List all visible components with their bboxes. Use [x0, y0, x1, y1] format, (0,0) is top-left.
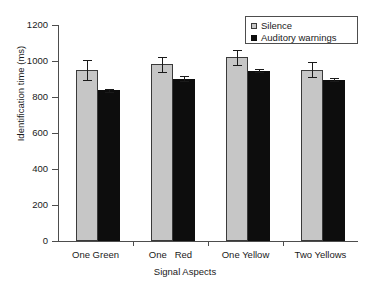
legend-item-silence: Silence [251, 20, 353, 31]
bar-silence-0 [76, 70, 98, 241]
x-axis-category-label: Two Yellows [283, 249, 358, 260]
y-axis-tick-label: 0 [8, 236, 48, 246]
error-bar-line [237, 50, 238, 65]
error-bar-cap-bottom [330, 81, 339, 82]
x-axis-category-label: One Red [133, 249, 208, 260]
bar-chart: 020040060080010001200 One GreenOne RedOn… [0, 0, 370, 298]
legend: Silence Auditory warnings [245, 16, 358, 44]
error-bar-cap-top [330, 78, 339, 79]
error-bar-line [87, 60, 88, 80]
y-axis-title: Identification time (ms) [15, 24, 26, 164]
error-bar-cap-top [83, 60, 92, 61]
error-bar-cap-top [308, 62, 317, 63]
x-axis-category-label: One Yellow [208, 249, 283, 260]
bar-auditory-3 [323, 80, 345, 241]
error-bar-cap-bottom [105, 92, 114, 93]
error-bar-line [162, 57, 163, 72]
x-axis-tick [208, 241, 209, 246]
error-bar-cap-bottom [233, 65, 242, 66]
error-bar-cap-top [105, 89, 114, 90]
y-axis-tick-label: 400 [8, 164, 48, 174]
legend-label-auditory-warnings: Auditory warnings [261, 33, 337, 43]
error-bar-cap-bottom [158, 72, 167, 73]
x-axis-category-label: One Green [58, 249, 133, 260]
error-bar-cap-top [233, 50, 242, 51]
legend-item-auditory-warnings: Auditory warnings [251, 32, 353, 43]
x-axis-title: Signal Aspects [0, 266, 370, 277]
plot-area [58, 25, 358, 241]
x-axis-tick [133, 241, 134, 246]
error-bar-cap-bottom [83, 80, 92, 81]
error-bar-cap-top [180, 76, 189, 77]
error-bar-cap-bottom [255, 72, 264, 73]
error-bar-cap-top [255, 69, 264, 70]
bar-auditory-1 [173, 79, 195, 241]
legend-swatch-silence-icon [251, 23, 257, 29]
bar-silence-1 [151, 64, 173, 241]
bar-silence-2 [226, 57, 248, 241]
error-bar-cap-bottom [308, 77, 317, 78]
y-axis-tick-label: 200 [8, 200, 48, 210]
legend-label-silence: Silence [261, 21, 292, 31]
bar-auditory-2 [248, 71, 270, 241]
legend-swatch-auditory-icon [251, 35, 257, 41]
bar-silence-3 [301, 70, 323, 241]
bar-auditory-0 [98, 90, 120, 241]
error-bar-line [312, 62, 313, 77]
y-axis-tick [52, 241, 58, 242]
x-axis-tick [283, 241, 284, 246]
error-bar-cap-bottom [180, 81, 189, 82]
error-bar-cap-top [158, 57, 167, 58]
